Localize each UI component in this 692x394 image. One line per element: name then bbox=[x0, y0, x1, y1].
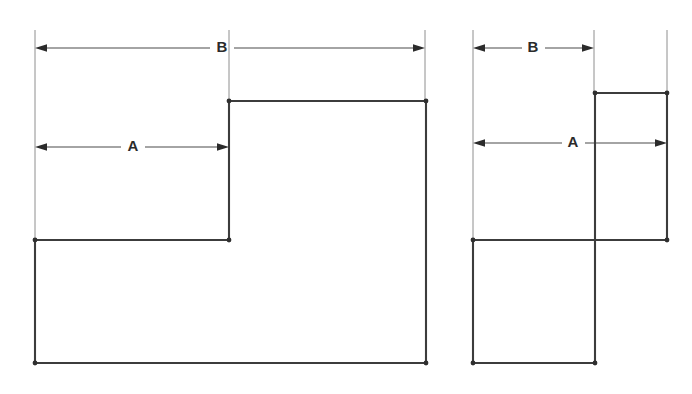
vertex-dot bbox=[471, 238, 476, 243]
dimension-drawing: B A bbox=[0, 0, 692, 394]
dimension-a-right-arrow-start bbox=[473, 139, 485, 147]
dimension-a-right-arrow-end bbox=[655, 139, 667, 147]
dimension-b-left: B bbox=[35, 38, 425, 55]
dimension-b-left-arrow-start bbox=[35, 44, 47, 52]
dimension-b-right-arrow-end bbox=[582, 44, 594, 52]
right-view-vertex-dots bbox=[471, 91, 670, 366]
dimension-b-right-label: B bbox=[527, 38, 538, 55]
right-view: B A bbox=[471, 30, 670, 365]
dimension-b-left-label: B bbox=[216, 38, 227, 55]
vertex-dot bbox=[227, 99, 232, 104]
vertex-dot bbox=[665, 238, 670, 243]
dimension-a-right-label: A bbox=[567, 133, 578, 150]
vertex-dot bbox=[593, 361, 598, 366]
dimension-a-left-label: A bbox=[127, 137, 138, 154]
vertex-dot bbox=[593, 91, 598, 96]
diagram-canvas: B A bbox=[0, 0, 692, 394]
vertex-dot bbox=[33, 361, 38, 366]
vertex-dot bbox=[227, 238, 232, 243]
vertex-dot bbox=[33, 238, 38, 243]
dimension-a-right: A bbox=[473, 133, 667, 150]
vertex-dot bbox=[424, 99, 429, 104]
dimension-a-left-arrow-end bbox=[217, 143, 229, 151]
dimension-a-left-arrow-start bbox=[35, 143, 47, 151]
vertex-dot bbox=[424, 361, 429, 366]
left-view-vertex-dots bbox=[33, 99, 429, 366]
left-view: B A bbox=[33, 30, 429, 365]
dimension-b-left-arrow-end bbox=[413, 44, 425, 52]
dimension-b-right-arrow-start bbox=[473, 44, 485, 52]
vertex-dot bbox=[471, 361, 476, 366]
left-view-outline bbox=[35, 101, 426, 363]
dimension-a-left: A bbox=[35, 137, 229, 154]
dimension-b-right: B bbox=[473, 38, 594, 55]
vertex-dot bbox=[665, 91, 670, 96]
